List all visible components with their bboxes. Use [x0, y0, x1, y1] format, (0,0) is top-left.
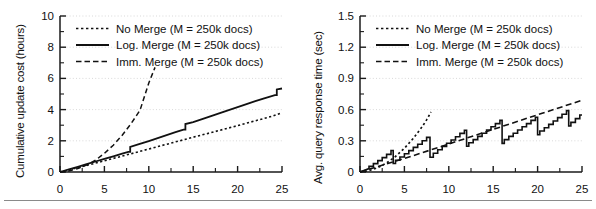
legend-right: No Merge (M = 250k docs) Log. Merge (M =…: [376, 23, 563, 68]
x-tick-label: 25: [576, 183, 589, 195]
x-tick-labels-right: 0 5 10 15 20 25: [357, 183, 589, 195]
legend-label-imm-merge: Imm. Merge (M = 250k docs): [116, 56, 263, 68]
series-line-imm-merge-left: [60, 67, 155, 172]
x-tick-label: 15: [487, 183, 500, 195]
y-tick-labels-right: 0 0.3 0.6 0.9 1.2 1.5: [338, 10, 354, 178]
y-tick-label: 0.9: [338, 72, 354, 84]
plot-area-right: 0 0.3 0.6 0.9 1.2 1.5 0 5 10 15 20 25: [298, 0, 596, 209]
x-tick-label: 20: [231, 183, 244, 195]
legend-left: No Merge (M = 250k docs) Log. Merge (M =…: [76, 23, 263, 68]
y-tick-label: 2: [48, 135, 54, 147]
chart-panel-left: Cumulative update cost (hours): [0, 0, 298, 209]
gridlines-right: [360, 16, 582, 141]
legend-label-imm-merge: Imm. Merge (M = 250k docs): [416, 56, 563, 68]
y-tick-label: 1.2: [338, 41, 354, 53]
y-tick-label: 6: [48, 72, 54, 84]
series-line-log-merge-left: [60, 89, 282, 173]
x-tick-label: 20: [531, 183, 544, 195]
y-tick-label: 10: [41, 10, 54, 22]
plot-area-left: 0 2 4 6 8 10 0 5 10 15 20 25: [0, 0, 298, 209]
y-tick-label: 0: [48, 166, 54, 178]
legend-label-no-merge: No Merge (M = 250k docs): [116, 23, 253, 35]
series-line-log-merge-right: [360, 111, 582, 172]
y-tick-label: 0: [348, 166, 354, 178]
figure-bottom-rule: [4, 200, 592, 201]
x-tick-label: 5: [101, 183, 107, 195]
figure: Cumulative update cost (hours): [0, 0, 596, 209]
y-tick-label: 1.5: [338, 10, 354, 22]
x-tick-labels-left: 0 5 10 15 20 25: [57, 183, 289, 195]
legend-label-log-merge: Log. Merge (M = 250k docs): [116, 39, 260, 51]
x-tick-label: 5: [401, 183, 407, 195]
x-tick-label: 10: [142, 183, 155, 195]
x-tick-label: 0: [57, 183, 63, 195]
x-tick-label: 0: [357, 183, 363, 195]
chart-panel-right: Avg. query response time (sec): [298, 0, 596, 209]
x-tick-label: 15: [187, 183, 200, 195]
legend-label-log-merge: Log. Merge (M = 250k docs): [416, 39, 560, 51]
y-tick-label: 4: [48, 104, 55, 116]
y-tick-labels-left: 0 2 4 6 8 10: [41, 10, 54, 178]
x-tick-label: 25: [276, 183, 289, 195]
legend-label-no-merge: No Merge (M = 250k docs): [416, 23, 553, 35]
y-tick-label: 8: [48, 41, 54, 53]
y-tick-label: 0.6: [338, 104, 354, 116]
x-tick-label: 10: [442, 183, 455, 195]
y-tick-label: 0.3: [338, 135, 354, 147]
